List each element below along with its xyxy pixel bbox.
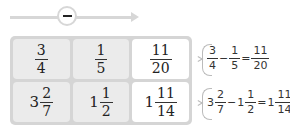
grid-cell: 327 [13,82,70,122]
numerator: 1 [245,89,256,101]
denominator: 20 [152,61,170,76]
whole-number: 3 [30,93,40,111]
equation-row-1: 34 − 15 = 1120 [207,45,269,72]
numerator: 1 [95,43,108,58]
numerator: 3 [35,43,48,58]
whole-number: 1 [89,93,99,111]
numerator: 1 [229,45,240,57]
whole-number: 1 [267,96,274,109]
whole-number: 1 [237,96,244,109]
grid-cell: 34 [13,39,70,79]
answer-cell[interactable]: 1120 [132,39,189,79]
grid-cell: 15 [73,39,130,79]
numerator: 11 [275,89,290,101]
denominator: 5 [97,61,106,76]
denominator: 7 [42,104,51,119]
denominator: 5 [231,60,238,72]
grid-cell: 112 [73,82,130,122]
numerator: 1 [100,86,113,101]
equation-row-2: 3 27 − 1 12 = 1 1114 [207,89,290,116]
denominator: 7 [217,104,224,116]
minus-operator-icon [57,6,77,26]
denominator: 14 [277,104,290,116]
denominator: 2 [102,104,111,119]
numerator: 2 [215,89,226,101]
equals-sign: = [257,96,266,109]
equals-sign: = [241,52,250,65]
numerator: 3 [207,45,218,57]
minus-sign: − [219,52,228,65]
answer-cell[interactable]: 11114 [132,82,189,122]
denominator: 20 [253,60,267,72]
arrow-head-icon [131,12,139,22]
denominator: 4 [37,61,46,76]
numerator: 11 [155,86,177,101]
numerator: 2 [40,86,53,101]
numerator: 11 [150,43,172,58]
denominator: 14 [157,104,175,119]
whole-number: 1 [144,93,154,111]
denominator: 2 [247,104,254,116]
minus-sign: − [227,96,236,109]
fraction-grid: 34 15 1120 327 112 11114 [10,36,192,125]
whole-number: 3 [207,96,214,109]
denominator: 4 [209,60,216,72]
numerator: 11 [251,45,269,57]
